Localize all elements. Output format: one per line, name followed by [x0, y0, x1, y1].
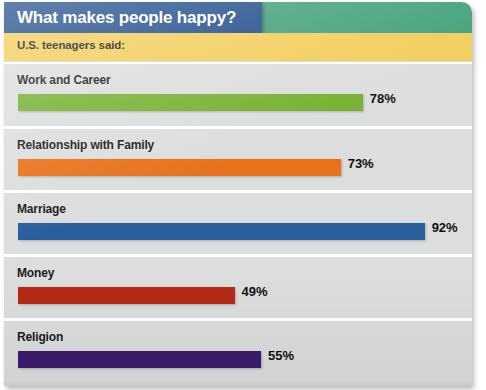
bar-fill [18, 223, 425, 240]
happiness-infographic: What makes people happy? U.S. teenagers … [0, 0, 486, 390]
bar-value-label: 49% [242, 284, 268, 299]
bar-value-label: 55% [268, 348, 294, 363]
bar-row: Marriage92% [4, 190, 472, 254]
bar-row-label: Marriage [17, 202, 66, 216]
bar-value-label: 78% [370, 91, 396, 106]
bar-row: Work and Career78% [4, 62, 472, 126]
chart-card: What makes people happy? U.S. teenagers … [4, 2, 472, 386]
bar-row-label: Work and Career [17, 73, 111, 87]
bar-rows: Work and Career78%Relationship with Fami… [4, 62, 472, 382]
bar-fill [18, 159, 341, 176]
bar-row: Money49% [4, 254, 472, 318]
page-title: What makes people happy? [17, 8, 236, 28]
bar-row: Relationship with Family73% [4, 126, 472, 190]
bar-row-label: Religion [17, 330, 63, 344]
bar-track [18, 351, 462, 368]
bar-track [18, 223, 462, 240]
bar-fill [18, 287, 235, 304]
bar-row-label: Relationship with Family [17, 138, 154, 152]
bar-track [18, 159, 462, 176]
bar-value-label: 73% [348, 156, 374, 171]
bar-row: Religion55% [4, 318, 472, 382]
bar-value-label: 92% [432, 220, 458, 235]
subtitle-label: U.S. teenagers said: [17, 39, 125, 51]
bar-fill [18, 94, 363, 111]
bar-track [18, 287, 462, 304]
bar-row-label: Money [17, 266, 54, 280]
bar-fill [18, 351, 261, 368]
